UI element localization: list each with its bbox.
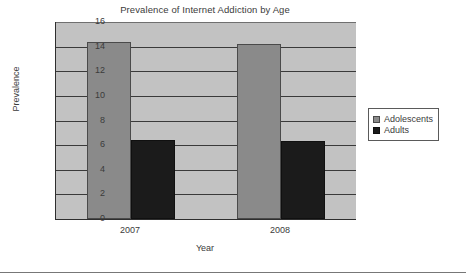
- legend-label-adults: Adults: [384, 125, 409, 135]
- legend-swatch-icon-adults: [373, 127, 380, 134]
- bar-adults-2008: [281, 141, 325, 219]
- chart-legend: Adolescents Adults: [368, 108, 439, 141]
- legend-item-adolescents[interactable]: Adolescents: [373, 114, 433, 124]
- legend-swatch-icon-adolescents: [373, 116, 380, 123]
- y-axis-tick-label: 0: [65, 213, 105, 223]
- chart-title: Prevalence of Internet Addiction by Age: [0, 4, 410, 15]
- y-axis-tick-label: 6: [65, 139, 105, 149]
- bar-adolescents-2008: [237, 44, 281, 219]
- y-axis-tick-label: 8: [65, 115, 105, 125]
- bar-chart: Prevalence of Internet Addiction by Age …: [0, 0, 466, 280]
- x-axis-title: Year: [55, 243, 355, 253]
- y-axis-tick-label: 12: [65, 65, 105, 75]
- y-axis-tick-label: 4: [65, 164, 105, 174]
- x-axis-tick-label: 2007: [70, 225, 190, 235]
- y-axis-tick-label: 2: [65, 188, 105, 198]
- legend-item-adults[interactable]: Adults: [373, 125, 433, 135]
- x-axis-tick-label: 2008: [220, 225, 340, 235]
- y-axis-tick-label: 16: [65, 16, 105, 26]
- bar-adults-2007: [131, 140, 175, 219]
- legend-label-adolescents: Adolescents: [384, 114, 433, 124]
- y-axis-tick-label: 10: [65, 90, 105, 100]
- y-axis-tick-label: 14: [65, 41, 105, 51]
- y-axis-title: Prevalence: [11, 49, 21, 129]
- bottom-divider: [0, 272, 466, 273]
